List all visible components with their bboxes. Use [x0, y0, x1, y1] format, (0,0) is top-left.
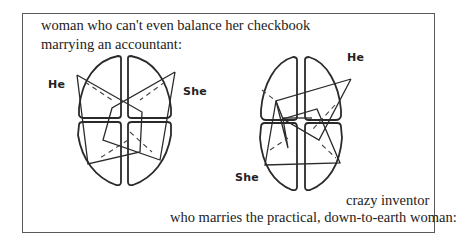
left-diagram-profile-she	[103, 72, 175, 160]
right-diagram-profile-he	[262, 79, 351, 140]
right-label-she: She	[235, 172, 259, 183]
right-label-he: He	[347, 52, 364, 63]
caption-bottom-line2: who marries the practical, down-to-earth…	[170, 210, 457, 225]
left-diagram-lobes	[78, 56, 171, 185]
left-label-she: She	[183, 86, 207, 97]
left-label-he: He	[48, 79, 65, 90]
caption-bottom-line1: crazy inventor	[346, 193, 429, 208]
right-diagram-profile-she	[265, 101, 340, 165]
